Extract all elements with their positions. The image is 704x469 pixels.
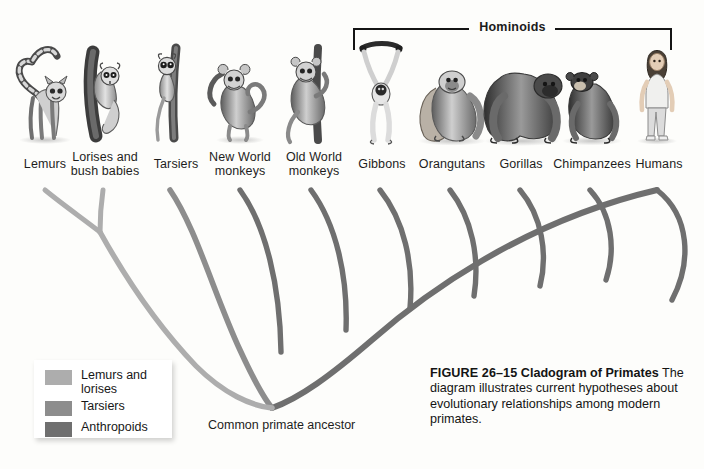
legend-label-tarsiers: Tarsiers <box>81 400 125 414</box>
legend-row-anthropoids: Anthropoids <box>45 421 148 437</box>
branch-humans <box>657 190 685 300</box>
legend-row-lemurs-lorises: Lemurs and lorises <box>45 369 147 396</box>
figure-number: FIGURE 26–15 <box>430 366 517 380</box>
figure-caption: FIGURE 26–15 Cladogram of Primates The d… <box>430 366 692 428</box>
branch-lorises <box>100 190 103 232</box>
legend-label-lemurs-lorises: Lemurs and lorises <box>81 369 147 396</box>
legend-swatch-lemurs-lorises <box>45 370 72 385</box>
branch-new-world-monkeys <box>240 190 281 352</box>
legend-box: Lemurs and lorises Tarsiers Anthropoids <box>34 360 172 438</box>
branch-gibbons <box>380 190 411 308</box>
legend-swatch-anthropoids <box>45 422 72 437</box>
common-ancestor-label: Common primate ancestor <box>208 418 355 432</box>
legend-row-tarsiers: Tarsiers <box>45 400 125 416</box>
branch-lemurs <box>45 190 100 232</box>
figure-title: Cladogram of Primates <box>521 366 659 380</box>
cladogram-figure: Lemurs Lorises and bush babies Tarsiers … <box>0 0 704 469</box>
branch-old-world-monkeys <box>311 190 346 330</box>
legend-swatch-tarsiers <box>45 401 72 416</box>
legend-label-anthropoids: Anthropoids <box>81 421 148 435</box>
